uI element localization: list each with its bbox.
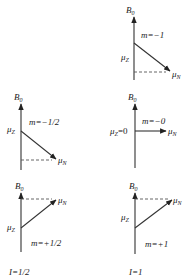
- panel-m-zero: B0 m=−0 μZ=0 μN: [109, 92, 178, 168]
- m-label: m=+1/2: [31, 238, 62, 248]
- column-label-i-half: I=1/2: [8, 267, 30, 277]
- b0-label: B0: [129, 181, 138, 192]
- mu-z-label: μZ: [6, 222, 16, 233]
- mu-z-label: μZ: [120, 212, 130, 223]
- mu-n-label: μN: [57, 195, 68, 206]
- moment-vector: [135, 200, 172, 228]
- m-label: m=−1: [141, 30, 164, 40]
- b0-label: B0: [128, 92, 137, 103]
- mu-z-label: μZ: [6, 124, 16, 135]
- mu-n-label: μN: [172, 195, 183, 206]
- b0-label: B0: [15, 181, 24, 192]
- panel-m-minus-1: B0 m=−1 μZ μN: [120, 5, 182, 80]
- mu-z-label: μZ=0: [109, 126, 128, 137]
- b0-label: B0: [14, 92, 23, 103]
- m-label: m=−0: [142, 116, 166, 126]
- column-label-i-one: I=1: [128, 267, 143, 277]
- m-label: m=−1/2: [29, 117, 60, 127]
- panel-m-plus-half: B0 μZ μN m=+1/2: [6, 181, 68, 252]
- b0-label: B0: [126, 5, 135, 16]
- moment-vector: [134, 43, 170, 71]
- spin-orientation-diagram: B0 m=−1 μZ μN B0 m=−1/2 μZ μN B0 m=−0 μZ…: [0, 0, 188, 280]
- m-label: m=+1: [145, 239, 168, 249]
- mu-z-label: μZ: [120, 52, 130, 63]
- moment-vector: [21, 200, 56, 228]
- mu-n-label: μN: [171, 69, 182, 80]
- moment-vector: [21, 131, 56, 159]
- panel-m-minus-half: B0 m=−1/2 μZ μN: [6, 92, 68, 170]
- panel-m-plus-1: B0 μZ μN m=+1: [120, 181, 183, 254]
- mu-n-label: μN: [167, 126, 178, 137]
- mu-n-label: μN: [57, 155, 68, 166]
